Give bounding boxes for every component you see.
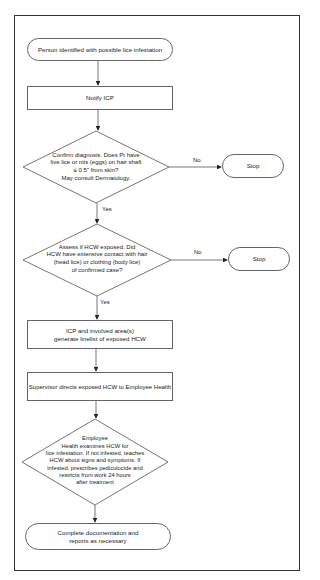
stop1-terminal: Stop (222, 154, 284, 178)
end-terminal: Complete documentation and reports as ne… (25, 523, 171, 550)
linelist-text: ICP and involved area(s) generate lineli… (54, 327, 146, 343)
supervisor-step: Supervisor directs exposed HCW to Employ… (27, 372, 173, 401)
decision1-text: Confirm diagnosis. Does Pt have live lic… (40, 145, 152, 189)
end-text: Complete documentation and reports as ne… (58, 529, 139, 545)
stop2-terminal: Stop (228, 247, 290, 271)
stop2-text: Stop (253, 255, 266, 263)
decision3-text: Employee Health examines HCW for lice in… (34, 432, 156, 490)
start-text: Person identified with possible lice inf… (38, 46, 162, 54)
notify-icp-step: Notify ICP (27, 86, 173, 110)
decision1-yes-label: Yes (102, 206, 112, 212)
decision2-no-label: No (194, 249, 202, 255)
notify-text: Notify ICP (86, 94, 114, 102)
decision2-yes-label: Yes (100, 299, 110, 305)
decision2-text: Assess if HCW exposed. Did HCW have exte… (40, 240, 154, 278)
stop1-text: Stop (247, 162, 260, 170)
decision1-no-label: No (193, 157, 201, 163)
start-terminal: Person identified with possible lice inf… (27, 38, 173, 61)
linelist-step: ICP and involved area(s) generate lineli… (27, 320, 173, 349)
supervisor-text: Supervisor directs exposed HCW to Employ… (29, 383, 171, 391)
